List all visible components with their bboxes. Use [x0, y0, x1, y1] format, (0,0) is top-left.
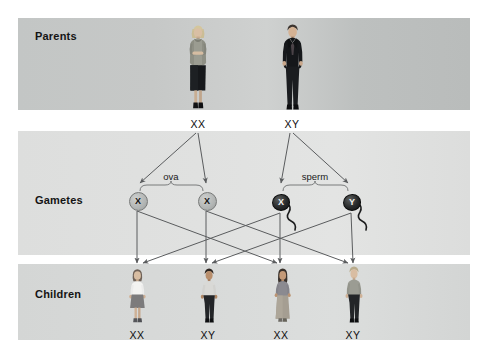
child-figure-4	[342, 264, 366, 329]
genotype-child-4: XY	[333, 329, 373, 341]
row-label-children: Children	[35, 288, 81, 300]
child-figure-3	[271, 266, 294, 329]
gamete-allele-label: X	[278, 198, 284, 207]
gamete-allele-label: X	[204, 197, 210, 206]
genotype-father: XY	[272, 118, 312, 130]
gamete-allele-label: Y	[349, 198, 355, 207]
girl-long-skirt-figure	[271, 266, 294, 329]
genotype-child-3: XX	[261, 329, 301, 341]
row-label-parents: Parents	[35, 30, 77, 42]
child-figure-2	[197, 266, 221, 329]
row-band-gametes	[18, 131, 470, 255]
boy-tall-figure	[342, 264, 366, 329]
genotype-mother: XX	[178, 118, 218, 130]
boy-figure	[197, 266, 221, 329]
parent-figure-mother	[183, 23, 213, 115]
parent-figure-father	[277, 22, 308, 116]
diagram-canvas: Parents Gametes Children	[0, 0, 491, 355]
row-band-children	[18, 264, 470, 340]
sperm-bracket-label: sperm	[285, 171, 345, 182]
gamete-allele-label: X	[135, 197, 141, 206]
gamete-ovum-1: X	[129, 192, 148, 211]
gamete-sperm-2: Y	[343, 194, 361, 211]
row-label-gametes: Gametes	[35, 194, 83, 206]
gamete-sperm-1: X	[272, 194, 290, 211]
genotype-child-2: XY	[188, 329, 228, 341]
woman-standing-figure	[183, 23, 213, 115]
man-in-suit-figure	[277, 22, 308, 116]
gamete-ovum-2: X	[198, 192, 217, 211]
girl-figure	[125, 267, 150, 329]
child-figure-1	[125, 267, 150, 329]
genotype-child-1: XX	[117, 329, 157, 341]
row-band-parents	[18, 18, 470, 110]
ova-bracket-label: ova	[141, 171, 201, 182]
